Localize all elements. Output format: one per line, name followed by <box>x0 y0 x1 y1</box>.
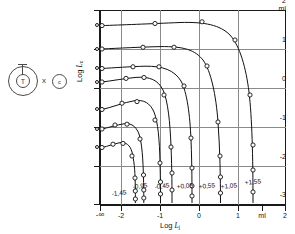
y-unit-label: ml <box>279 5 286 12</box>
data-point <box>100 47 104 51</box>
x-tick-label-ml: ml <box>258 212 265 219</box>
curve-minus045 <box>102 100 161 203</box>
x-tick-ml <box>262 205 263 211</box>
y-tick-label-m3: -3 <box>280 191 286 198</box>
data-point <box>170 171 174 175</box>
y-axis-title: Log Lc <box>75 60 84 82</box>
data-point <box>170 188 174 192</box>
data-point <box>100 66 104 70</box>
data-point <box>131 65 135 69</box>
data-point <box>113 123 117 127</box>
data-point <box>142 196 146 200</box>
y-minor-marker <box>95 66 99 70</box>
data-point <box>100 107 104 111</box>
y-tick-m2 <box>94 166 100 167</box>
data-point <box>135 100 139 104</box>
data-point <box>153 21 157 25</box>
data-point <box>218 175 222 179</box>
x-tick-label-2: 2 <box>283 212 287 219</box>
data-point <box>100 127 104 131</box>
data-point <box>158 161 162 165</box>
data-point <box>111 142 115 146</box>
data-point <box>251 168 255 172</box>
data-point <box>100 145 104 149</box>
data-point <box>130 154 134 158</box>
y-minor-marker <box>95 80 99 84</box>
data-point <box>218 191 222 195</box>
data-point <box>169 145 173 149</box>
figure-root: T x c <box>0 0 295 234</box>
data-point <box>120 101 124 105</box>
x-tick-2 <box>285 205 286 211</box>
y-tick-2 <box>94 10 100 11</box>
data-point <box>218 154 222 158</box>
y-tick-label-m2: -2 <box>280 153 286 160</box>
data-point <box>200 20 204 24</box>
data-point <box>157 65 161 69</box>
curve-layer <box>100 10 286 205</box>
x-tick-m2 <box>121 205 122 211</box>
curve-plus155 <box>102 22 253 203</box>
data-point <box>100 80 104 84</box>
y-minor-marker <box>95 127 99 131</box>
data-point <box>142 75 146 79</box>
multiply-icon: x <box>42 77 46 85</box>
data-point <box>100 24 104 28</box>
y-tick-label-2: 2 <box>282 0 286 4</box>
y-axis <box>92 10 100 205</box>
data-point <box>158 192 162 196</box>
data-point <box>251 143 255 147</box>
y-minor-marker <box>95 23 99 27</box>
data-point <box>233 38 237 42</box>
data-point <box>124 76 128 80</box>
y-tick-0 <box>94 88 100 89</box>
x-tick-m1 <box>160 205 161 211</box>
x-axis-spine <box>100 205 286 206</box>
x-tick-label-1: 1 <box>236 212 240 219</box>
data-point <box>182 84 186 88</box>
y-minor-marker <box>95 107 99 111</box>
y-axis-spine <box>99 10 100 205</box>
data-point <box>133 197 137 201</box>
x-tick-label-inf: -∞ <box>96 211 104 219</box>
x-tick-label-m2: -2 <box>118 212 124 219</box>
data-point <box>189 136 193 140</box>
data-point <box>153 118 157 122</box>
symbol-t-label: T <box>21 78 25 85</box>
data-point <box>172 45 176 49</box>
c-circle-icon: c <box>52 74 67 89</box>
plot-area <box>100 10 286 205</box>
x-axis-title: Log Lj <box>160 221 180 230</box>
x-tick-label-m1: -1 <box>157 212 163 219</box>
y-minor-marker <box>95 145 99 149</box>
data-point <box>141 173 145 177</box>
y-minor-marker <box>95 47 99 51</box>
data-point <box>190 166 194 170</box>
y-tick-label-1: 1 <box>282 36 286 43</box>
x-tick-label-0: 0 <box>197 212 201 219</box>
inner-circle-icon: T <box>16 74 30 88</box>
data-point <box>138 137 142 141</box>
data-point <box>141 45 145 49</box>
data-point <box>162 93 166 97</box>
data-point <box>121 141 125 145</box>
data-point <box>248 93 252 97</box>
data-point <box>251 190 255 194</box>
symbol-group: T x c <box>8 62 70 98</box>
data-point <box>216 120 220 124</box>
data-point <box>205 64 209 68</box>
data-point <box>190 194 194 198</box>
x-tick-1 <box>238 205 239 211</box>
y-tick-label-m1: -1 <box>280 114 286 121</box>
data-point <box>133 176 137 180</box>
symbol-c-label: c <box>58 79 61 85</box>
x-tick-0 <box>199 205 200 211</box>
data-point <box>125 122 129 126</box>
y-tick-label-0: 0 <box>282 75 286 82</box>
